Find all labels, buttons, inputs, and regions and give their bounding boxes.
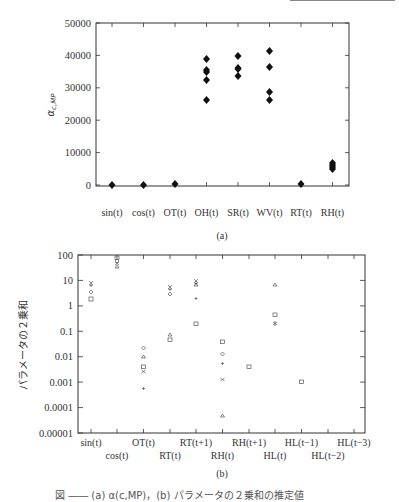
xcat-b-hl-minus3: HL(t−3) [337, 437, 370, 449]
xcat-a-sr: SR(t) [227, 207, 249, 219]
ytick-b-0.01: 0.01 [55, 351, 73, 362]
xcat-a-ot: OT(t) [164, 207, 187, 219]
xcat-a-rh: RH(t) [321, 207, 344, 219]
xcat-a-wv: WV(t) [256, 207, 282, 219]
y-axis-title-b: パラメータの２乗和 [18, 300, 29, 390]
xcat-b-hl-minus2: HL(t−2) [311, 450, 344, 462]
panel-a: 50000 40000 30000 20000 10000 0 αc,MP [45, 18, 349, 243]
xcat-b-ot: OT(t) [132, 437, 155, 449]
xcat-b-sin: sin(t) [80, 437, 101, 449]
ytick-a-50000: 50000 [65, 18, 91, 29]
ytick-b-1: 1 [68, 300, 73, 311]
series-b-markers [89, 256, 304, 417]
ytick-b-0.001: 0.001 [49, 377, 73, 388]
panel-b: 100 10 1 0.1 0.01 0.001 0.0001 0.00001 パ… [18, 250, 371, 481]
xcat-a-rt: RT(t) [290, 207, 312, 219]
y-axis-title-a: αc,MP [45, 93, 58, 117]
ytick-a-0: 0 [86, 180, 91, 191]
xcat-a-sin: sin(t) [101, 207, 122, 219]
plot-frame-b [78, 255, 365, 433]
panel-label-b: (b) [216, 468, 228, 480]
plot-frame-a [96, 23, 349, 186]
figure-caption: 図 ―― (a) α(c,MP)，(b) パラメータの２乗和の推定値 [55, 487, 304, 502]
ytick-b-0.1: 0.1 [60, 326, 73, 337]
ytick-a-20000: 20000 [65, 115, 91, 126]
xcat-b-hl: HL(t) [264, 450, 287, 462]
ytick-b-0.0001: 0.0001 [44, 402, 73, 413]
svg-text:パラメータの２乗和: パラメータの２乗和 [18, 300, 29, 390]
ytick-b-0.00001: 0.00001 [39, 428, 73, 439]
svg-text:αc,MP: αc,MP [45, 93, 58, 117]
ytick-a-40000: 40000 [65, 50, 91, 61]
panel-label-a: (a) [216, 230, 227, 242]
ytick-a-30000: 30000 [65, 82, 91, 93]
xcat-a-cos: cos(t) [132, 207, 155, 219]
series-a-points [109, 47, 337, 189]
xcat-b-rt-plus1: RT(t+1) [180, 437, 212, 449]
xcat-a-oh: OH(t) [195, 207, 219, 219]
xcat-b-rh-plus1: RH(t+1) [232, 437, 266, 449]
ytick-b-100: 100 [57, 250, 73, 261]
xcat-b-cos: cos(t) [106, 450, 129, 462]
ytick-b-10: 10 [63, 275, 74, 286]
xcat-b-rh: RH(t) [211, 450, 234, 462]
xcat-b-rt: RT(t) [159, 450, 181, 462]
xcat-b-hl-minus1: HL(t−1) [285, 437, 318, 449]
ytick-a-10000: 10000 [65, 147, 91, 158]
